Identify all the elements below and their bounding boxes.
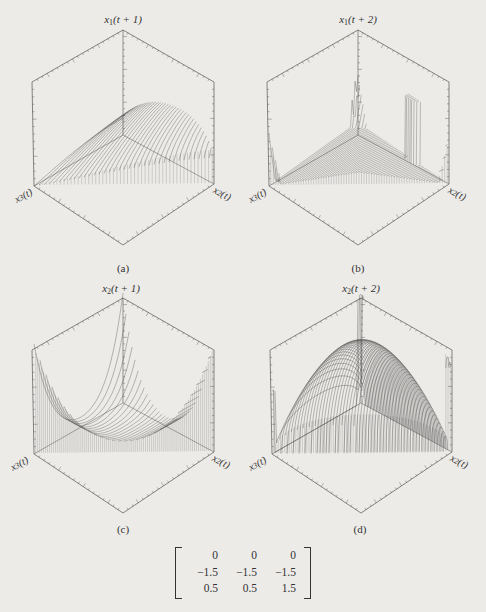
panel-a-plot bbox=[0, 0, 243, 260]
panel-d-caption: (d) bbox=[354, 523, 367, 535]
matrix-row: −1.5 −1.5 −1.5 bbox=[184, 564, 301, 581]
matrix-cell: −1.5 bbox=[262, 564, 301, 581]
matrix-row: 0 0 0 bbox=[184, 547, 301, 564]
panel-c-vertical-axis-label: x2(t + 1) bbox=[102, 282, 140, 296]
panel-b-vertical-axis-label: x1(t + 2) bbox=[339, 13, 377, 27]
matrix-cell: 0 bbox=[184, 547, 223, 564]
figure: x1(t + 1) x3(t) x2(t) (a) x1(t + 2) x3(t… bbox=[0, 0, 486, 612]
matrix-cell: 0.5 bbox=[223, 580, 262, 597]
matrix-cell: 0.5 bbox=[184, 580, 223, 597]
matrix-row: 0.5 0.5 1.5 bbox=[184, 580, 301, 597]
matrix-left-bracket bbox=[175, 547, 182, 599]
panel-a-vertical-axis-label: x1(t + 1) bbox=[104, 13, 142, 27]
matrix-right-bracket bbox=[304, 547, 311, 599]
panel-d-plot bbox=[238, 268, 481, 528]
matrix-cell: −1.5 bbox=[223, 564, 262, 581]
matrix-cell: 0 bbox=[223, 547, 262, 564]
matrix-cell: 0 bbox=[262, 547, 301, 564]
panel-c-plot bbox=[0, 268, 243, 528]
matrix-cell: 1.5 bbox=[262, 580, 301, 597]
parameter-matrix: 0 0 0 −1.5 −1.5 −1.5 0.5 0.5 1.5 bbox=[175, 547, 311, 599]
panel-d-vertical-axis-label: x2(t + 2) bbox=[342, 282, 380, 296]
panel-c-caption: (c) bbox=[117, 523, 129, 535]
matrix-cell: −1.5 bbox=[184, 564, 223, 581]
matrix-table: 0 0 0 −1.5 −1.5 −1.5 0.5 0.5 1.5 bbox=[184, 547, 301, 597]
panel-b-plot bbox=[235, 0, 478, 260]
